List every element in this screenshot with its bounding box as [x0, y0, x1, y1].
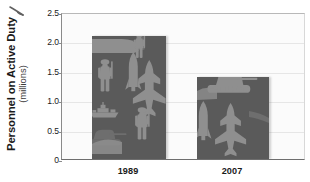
y-axis-title: Personnel on Active Duty (millions) [0, 0, 34, 168]
y-axis-tick-mark [59, 132, 62, 133]
bar-fill-military-silhouettes [197, 77, 269, 159]
x-axis-tick-label: 2007 [222, 166, 243, 176]
y-axis-tick-mark [59, 14, 62, 15]
y-axis-tick-mark [59, 73, 62, 74]
y-axis-tick-mark [59, 102, 62, 103]
plot-area [61, 13, 305, 160]
y-axis-tick-mark [59, 161, 62, 162]
x-axis-tick-label: 1989 [118, 166, 139, 176]
y-axis-title-units: (millions) [18, 17, 28, 151]
y-axis-tick-mark [59, 43, 62, 44]
bar-2007 [197, 77, 269, 159]
bar-1989 [92, 36, 166, 159]
y-axis-tick-label: 0 [35, 155, 59, 165]
y-axis-tick-label: 2.5 [35, 8, 59, 18]
y-axis-tick-label: 0.5 [35, 126, 59, 136]
plot-inner [62, 14, 304, 159]
y-axis-tick-label: 1.5 [35, 67, 59, 77]
bar-chart: Personnel on Active Duty (millions) 00.5… [0, 0, 310, 182]
y-axis-tick-labels: 00.51.01.52.02.5 [34, 0, 59, 182]
y-axis-tick-label: 1.0 [35, 96, 59, 106]
y-axis-tick-label: 2.0 [35, 37, 59, 47]
bar-fill-military-silhouettes [92, 36, 166, 159]
